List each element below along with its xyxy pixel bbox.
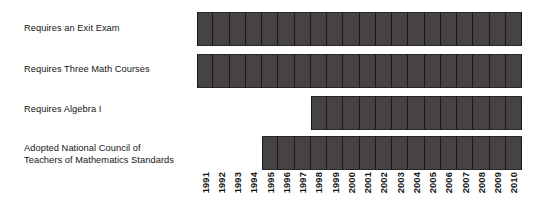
year-tick-label: 1996 xyxy=(282,172,291,193)
year-tick-1996: 1996 xyxy=(278,172,294,222)
bar-cell xyxy=(473,136,489,170)
bar-cell xyxy=(246,12,262,46)
bar-cell xyxy=(457,96,473,130)
bar-cell xyxy=(441,96,457,130)
year-tick-label: 1991 xyxy=(201,172,210,193)
bar-cell xyxy=(295,54,311,88)
bar-cell xyxy=(490,12,506,46)
bar-cell xyxy=(392,54,408,88)
year-tick-label: 2001 xyxy=(363,172,372,193)
bar-cell xyxy=(376,96,392,130)
bar-cell xyxy=(230,12,246,46)
row-label-exit-exam: Requires an Exit Exam xyxy=(24,23,194,35)
year-tick-label: 2008 xyxy=(477,172,486,193)
bar-row-nctm-standards xyxy=(262,136,522,170)
bar-cell xyxy=(327,54,343,88)
bar-cell xyxy=(441,54,457,88)
bar-cell xyxy=(343,96,359,130)
bar-cell xyxy=(441,12,457,46)
bar-cell xyxy=(311,12,327,46)
year-tick-2009: 2009 xyxy=(490,172,506,222)
year-tick-label: 2006 xyxy=(444,172,453,193)
bar-cell xyxy=(376,136,392,170)
bar-cell xyxy=(457,12,473,46)
row-label-nctm-standards: Adopted National Council of Teachers of … xyxy=(24,143,194,166)
row-label-algebra-i: Requires Algebra I xyxy=(24,104,194,116)
bar-cell xyxy=(360,136,376,170)
year-tick-2003: 2003 xyxy=(392,172,408,222)
year-tick-1999: 1999 xyxy=(327,172,343,222)
bar-cell xyxy=(473,54,489,88)
bar-cell xyxy=(408,136,424,170)
year-tick-label: 2000 xyxy=(347,172,356,193)
bar-cell xyxy=(376,54,392,88)
bar-cell xyxy=(311,136,327,170)
bar-cell xyxy=(246,54,262,88)
bar-cell xyxy=(490,96,506,130)
bar-cell xyxy=(327,96,343,130)
year-tick-label: 1994 xyxy=(249,172,258,193)
bar-cell xyxy=(360,54,376,88)
year-tick-2007: 2007 xyxy=(457,172,473,222)
year-tick-label: 2010 xyxy=(509,172,518,193)
bar-cell xyxy=(327,12,343,46)
year-tick-1992: 1992 xyxy=(213,172,229,222)
bar-cell xyxy=(327,136,343,170)
bar-cell xyxy=(278,136,294,170)
bar-cell xyxy=(311,96,327,130)
bar-cell xyxy=(278,12,294,46)
year-tick-label: 2009 xyxy=(493,172,502,193)
year-tick-label: 1999 xyxy=(331,172,340,193)
bar-cell xyxy=(425,136,441,170)
year-tick-1998: 1998 xyxy=(311,172,327,222)
bar-cell xyxy=(506,54,522,88)
bar-cell xyxy=(408,54,424,88)
bar-cell xyxy=(473,96,489,130)
row-label-three-math-courses: Requires Three Math Courses xyxy=(24,64,194,76)
bar-cell xyxy=(262,136,278,170)
bar-cell xyxy=(278,54,294,88)
year-tick-1993: 1993 xyxy=(230,172,246,222)
year-tick-label: 2005 xyxy=(428,172,437,193)
bar-cell xyxy=(425,12,441,46)
bar-row-algebra-i xyxy=(311,96,522,130)
bar-cell xyxy=(197,12,213,46)
bar-row-exit-exam xyxy=(197,12,522,46)
year-tick-1991: 1991 xyxy=(197,172,213,222)
bar-cell xyxy=(213,54,229,88)
bar-cell xyxy=(295,12,311,46)
bar-cell xyxy=(376,12,392,46)
year-tick-label: 2004 xyxy=(412,172,421,193)
bar-cell xyxy=(360,12,376,46)
bar-cell xyxy=(408,12,424,46)
bar-cell xyxy=(262,12,278,46)
bar-cell xyxy=(360,96,376,130)
year-tick-label: 1992 xyxy=(217,172,226,193)
year-tick-2001: 2001 xyxy=(360,172,376,222)
year-tick-2006: 2006 xyxy=(441,172,457,222)
year-tick-label: 1995 xyxy=(266,172,275,193)
year-tick-label: 1998 xyxy=(314,172,323,193)
bar-cell xyxy=(425,54,441,88)
bar-cell xyxy=(506,136,522,170)
bar-cell xyxy=(490,54,506,88)
bar-cell xyxy=(343,12,359,46)
year-tick-label: 2007 xyxy=(461,172,470,193)
bar-cell xyxy=(197,54,213,88)
bar-cell xyxy=(392,136,408,170)
bar-cell xyxy=(343,136,359,170)
bar-cell xyxy=(490,136,506,170)
year-axis: 1991199219931994199519961997199819992000… xyxy=(197,172,522,222)
year-tick-label: 2003 xyxy=(396,172,405,193)
timeline-chart: Requires an Exit Exam Requires Three Mat… xyxy=(0,0,547,223)
year-tick-2004: 2004 xyxy=(408,172,424,222)
bar-cell xyxy=(441,136,457,170)
year-tick-2005: 2005 xyxy=(425,172,441,222)
bar-cell xyxy=(473,12,489,46)
bar-cell xyxy=(425,96,441,130)
bar-cell xyxy=(343,54,359,88)
year-tick-1995: 1995 xyxy=(262,172,278,222)
year-tick-label: 1997 xyxy=(298,172,307,193)
year-tick-1997: 1997 xyxy=(295,172,311,222)
year-tick-2008: 2008 xyxy=(473,172,489,222)
